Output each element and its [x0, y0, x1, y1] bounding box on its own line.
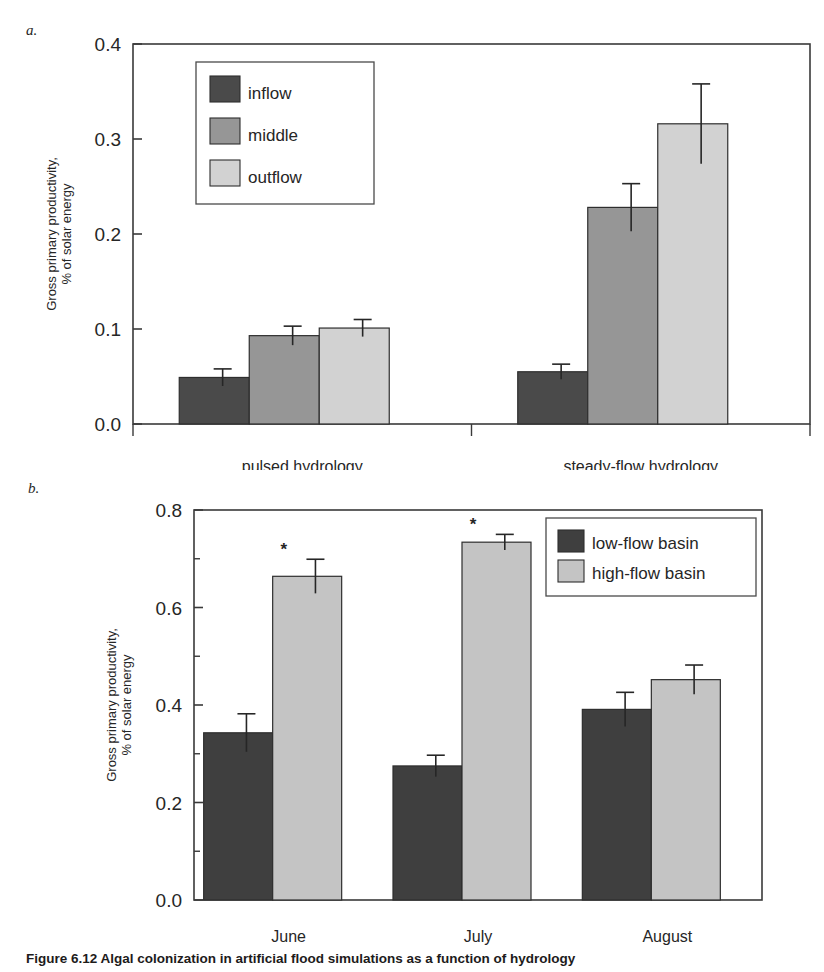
y-axis-title: Gross primary productivity,% of solar en… — [104, 628, 134, 782]
y-tick-label: 0.0 — [95, 414, 121, 435]
y-tick-label: 0.6 — [156, 598, 182, 619]
panel-a-plot: 0.00.10.20.30.4pulsed hydrologysteady-fl… — [0, 0, 824, 470]
y-axis-title-line1: Gross primary productivity, — [104, 628, 119, 782]
y-tick-label: 0.2 — [156, 793, 182, 814]
legend-label: outflow — [248, 168, 303, 187]
bar — [179, 377, 249, 424]
bar — [518, 372, 588, 424]
y-tick-label: 0.3 — [95, 129, 121, 150]
bar — [651, 680, 720, 900]
legend-swatch — [210, 118, 240, 144]
panel-a-letter: a. — [26, 22, 37, 39]
x-category-label: August — [642, 928, 692, 945]
bar — [582, 709, 651, 900]
y-tick-label: 0.8 — [156, 500, 182, 521]
legend-label: low-flow basin — [592, 534, 699, 553]
legend-label: inflow — [248, 84, 292, 103]
chart-panel-b: b. 0.00.20.40.60.8*June*JulyAugustGross … — [0, 462, 824, 952]
bar — [319, 328, 389, 424]
y-tick-label: 0.2 — [95, 224, 121, 245]
legend-swatch — [558, 560, 584, 582]
y-axis-title-line1: Gross primary productivity, — [44, 157, 59, 311]
significance-star: * — [280, 540, 287, 559]
bar — [273, 576, 342, 900]
bar — [588, 207, 658, 424]
legend-label: middle — [248, 126, 298, 145]
legend-swatch — [210, 160, 240, 186]
y-axis-title-line2: % of solar energy — [119, 654, 134, 756]
x-category-label: July — [464, 928, 492, 945]
figure-caption: Figure 6.12 Algal colonization in artifi… — [26, 950, 816, 972]
legend-swatch — [558, 530, 584, 552]
panel-b-letter: b. — [28, 480, 39, 497]
bar — [393, 766, 462, 900]
y-tick-label: 0.0 — [156, 890, 182, 911]
x-category-label: June — [271, 928, 306, 945]
bar — [462, 542, 531, 900]
y-axis-title-line2: % of solar energy — [59, 183, 74, 285]
chart-panel-a: a. 0.00.10.20.30.4pulsed hydrologysteady… — [0, 0, 824, 470]
figure-container: a. 0.00.10.20.30.4pulsed hydrologysteady… — [0, 0, 824, 972]
legend-swatch — [210, 76, 240, 102]
legend-label: high-flow basin — [592, 564, 705, 583]
bar — [204, 733, 273, 900]
panel-b-plot: 0.00.20.40.60.8*June*JulyAugustGross pri… — [0, 462, 824, 952]
bar — [249, 336, 319, 424]
y-tick-label: 0.4 — [156, 695, 183, 716]
y-axis-title: Gross primary productivity,% of solar en… — [44, 157, 74, 311]
y-tick-label: 0.4 — [95, 34, 122, 55]
y-tick-label: 0.1 — [95, 319, 121, 340]
bar — [658, 124, 728, 424]
significance-star: * — [470, 515, 477, 534]
